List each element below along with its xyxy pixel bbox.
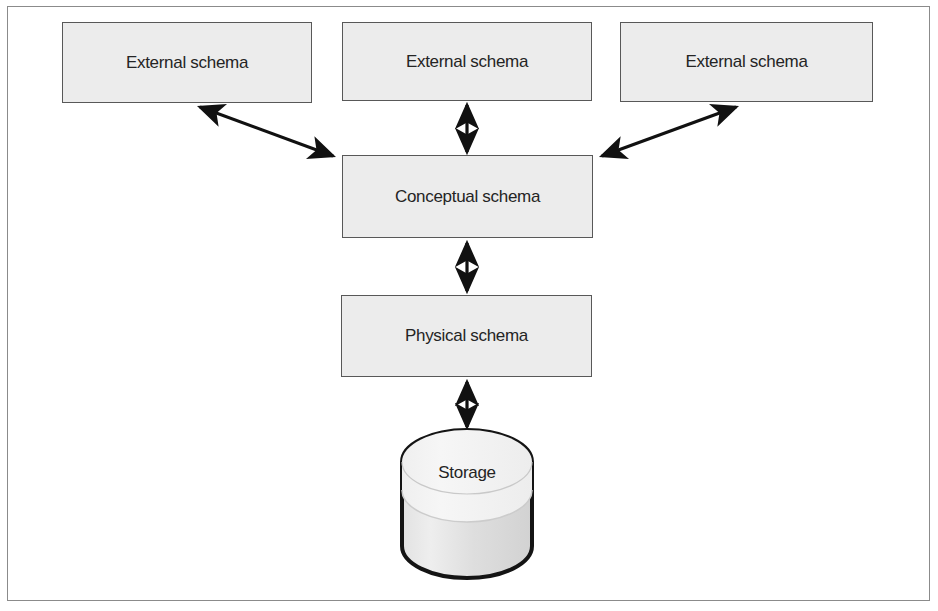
- node-external-schema-3[interactable]: External schema: [620, 22, 873, 102]
- node-label-conceptual-schema: Conceptual schema: [395, 187, 540, 207]
- node-label-external-schema-2: External schema: [406, 52, 528, 72]
- node-external-schema-2[interactable]: External schema: [342, 22, 592, 101]
- node-label-physical-schema: Physical schema: [405, 326, 528, 346]
- node-conceptual-schema[interactable]: Conceptual schema: [342, 155, 593, 238]
- node-label-storage: Storage: [402, 463, 532, 483]
- connector-external1-conceptual: [200, 107, 333, 156]
- node-external-schema-1[interactable]: External schema: [62, 22, 312, 103]
- diagram-canvas: External schema External schema External…: [0, 0, 938, 611]
- node-storage[interactable]: Storage: [402, 430, 532, 578]
- node-physical-schema[interactable]: Physical schema: [341, 295, 592, 377]
- node-label-external-schema-1: External schema: [126, 53, 248, 73]
- node-label-external-schema-3: External schema: [685, 52, 807, 72]
- connector-external3-conceptual: [602, 107, 736, 156]
